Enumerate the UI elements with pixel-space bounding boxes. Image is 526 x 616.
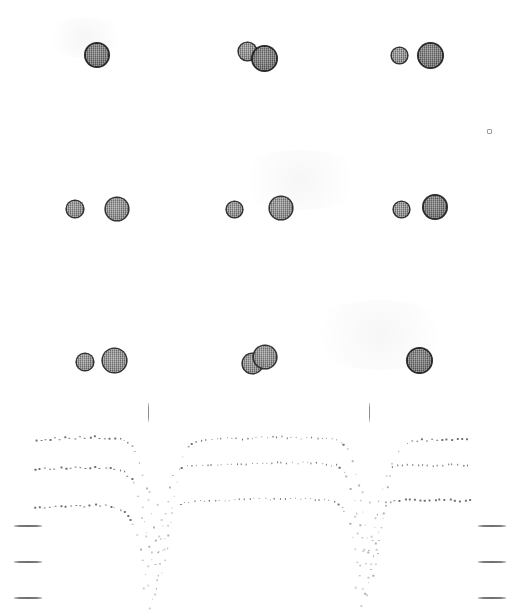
contour-dot — [390, 502, 391, 503]
contour-dot — [426, 465, 427, 466]
contour-noise-dot — [375, 518, 376, 519]
contour-dot — [307, 462, 308, 463]
contour-dot — [164, 538, 165, 539]
contour-dot — [35, 469, 36, 470]
contour-dot — [61, 467, 62, 468]
contour-dot — [454, 500, 455, 501]
contour-dot — [362, 588, 363, 589]
contour-dot — [243, 499, 244, 500]
contour-dot — [70, 468, 71, 469]
contour-dot — [162, 525, 163, 526]
contour-dot — [289, 497, 290, 498]
contour-dot — [124, 471, 125, 472]
contour-dot — [171, 507, 172, 508]
contour-dot — [111, 506, 112, 507]
vertical-tick-mark — [148, 403, 149, 422]
contour-dot — [381, 527, 382, 528]
contour-noise-dot — [143, 588, 144, 589]
spot-blob — [227, 202, 242, 217]
contour-dot — [420, 500, 421, 501]
contour-dot — [220, 464, 221, 465]
contour-dot — [207, 465, 208, 466]
contour-dot — [375, 564, 376, 565]
contour-dot — [227, 437, 228, 438]
contour-dot — [372, 540, 373, 541]
contour-dot — [146, 532, 147, 533]
contour-dot — [76, 505, 77, 506]
contour-noise-dot — [157, 504, 158, 505]
contour-noise-dot — [149, 608, 150, 609]
contour-dot — [385, 502, 386, 503]
contour-dot — [238, 499, 239, 500]
contour-dot — [295, 497, 296, 498]
contour-dot — [167, 548, 168, 549]
contour-dot — [375, 543, 376, 544]
contour-dot — [450, 499, 451, 500]
contour-dot — [252, 438, 253, 439]
contour-dot — [336, 439, 337, 440]
contour-dot — [106, 467, 107, 468]
contour-dot — [95, 504, 96, 505]
spot-blob — [424, 196, 446, 218]
contour-dot — [290, 436, 291, 437]
contour-dot — [448, 464, 449, 465]
contour-dot — [285, 498, 286, 499]
contour-dot — [273, 498, 274, 499]
contour-dot — [352, 536, 353, 537]
contour-dot — [39, 468, 40, 469]
contour-noise-dot — [368, 577, 369, 578]
contour-dot — [179, 468, 180, 469]
contour-noise-dot — [354, 516, 355, 517]
contour-dot — [457, 438, 458, 439]
contour-dot — [414, 499, 415, 500]
contour-dot — [170, 521, 171, 522]
contour-dot — [65, 436, 66, 437]
contour-dot — [191, 443, 192, 444]
contour-dot — [364, 524, 365, 525]
contour-dot — [191, 465, 192, 466]
contour-dot — [171, 512, 172, 513]
contour-dot — [140, 549, 141, 550]
contour-noise-dot — [154, 594, 155, 595]
contour-dot — [435, 500, 436, 501]
contour-dot — [422, 464, 423, 465]
contour-noise-dot — [362, 492, 363, 493]
contour-dot — [157, 575, 158, 576]
contour-dot — [368, 552, 369, 553]
contour-dot — [370, 569, 371, 570]
contour-dot — [432, 465, 433, 466]
contour-dot — [322, 463, 323, 464]
contour-dot — [426, 441, 427, 442]
contour-dot — [373, 555, 374, 556]
contour-dot — [255, 437, 256, 438]
contour-dot — [113, 469, 114, 470]
contour-dot — [209, 500, 210, 501]
contour-dot — [196, 465, 197, 466]
spot-blob — [394, 202, 409, 217]
contour-dot — [245, 464, 246, 465]
contour-dot — [94, 436, 95, 437]
spot-blob — [77, 354, 93, 370]
contour-dot — [311, 437, 312, 438]
contour-dot — [267, 437, 268, 438]
contour-dot — [280, 498, 281, 499]
margin-dash-right — [478, 561, 506, 563]
contour-dot — [54, 437, 55, 438]
spot-blob — [67, 201, 83, 217]
contour-dot — [253, 497, 254, 498]
contour-dot — [446, 439, 447, 440]
spot-blob — [254, 346, 276, 368]
contour-noise-dot — [360, 565, 361, 566]
contour-dot — [467, 465, 468, 466]
contour-noise-dot — [355, 587, 356, 588]
contour-dot — [292, 461, 293, 462]
contour-dot — [210, 464, 211, 465]
contour-dot — [461, 438, 462, 439]
contour-dot — [53, 468, 54, 469]
contour-dot — [377, 514, 378, 515]
contour-dot — [377, 553, 378, 554]
contour-dot — [318, 499, 319, 500]
contour-noise-dot — [376, 549, 377, 550]
contour-dot — [350, 488, 351, 489]
contour-dot — [151, 559, 152, 560]
